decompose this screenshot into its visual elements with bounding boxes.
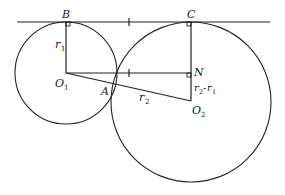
label-r2-minus-r1: r 2 - r 1 — [194, 82, 216, 96]
svg-text:2: 2 — [201, 111, 205, 119]
label-o1: O 1 — [55, 77, 68, 92]
label-o2: O 2 — [192, 104, 205, 119]
svg-text:1: 1 — [61, 45, 65, 53]
label-b: B — [61, 8, 70, 21]
tangent-circles-diagram: B C N A O 1 O 2 r 1 r 2 r 2 - r 1 — [0, 0, 285, 195]
label-r1: r 1 — [55, 38, 65, 53]
svg-text:1: 1 — [212, 88, 216, 96]
svg-text:1: 1 — [64, 84, 68, 92]
label-c: C — [187, 8, 196, 21]
svg-text:2: 2 — [145, 98, 149, 106]
svg-text:O: O — [55, 77, 64, 90]
label-r2: r 2 — [139, 91, 149, 106]
svg-text:O: O — [192, 104, 201, 117]
label-n: N — [193, 66, 204, 79]
label-a: A — [100, 85, 109, 98]
segment-o1-o2 — [66, 73, 191, 101]
svg-text:-: - — [203, 82, 206, 93]
